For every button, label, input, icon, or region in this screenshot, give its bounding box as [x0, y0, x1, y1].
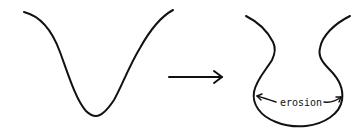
erosion-label: erosion — [280, 97, 322, 108]
erosion-annotation: erosion — [257, 94, 341, 108]
erosion-arrow-right — [324, 97, 341, 102]
diagram-canvas: erosion — [0, 0, 362, 138]
transition-arrow — [169, 71, 222, 83]
eroded-valley-curve — [246, 16, 350, 126]
v-valley-curve — [24, 10, 173, 116]
